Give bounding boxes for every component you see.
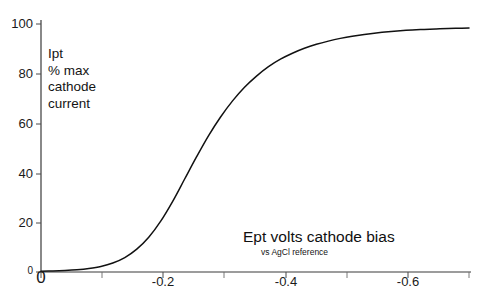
y-tick-label-40: 40 — [0, 167, 33, 181]
y-axis-label-line-2: % max — [48, 63, 96, 80]
y-axis-label: Ipt % max cathode current — [48, 46, 96, 112]
x-tick-label-neg02: -0.2 — [141, 275, 185, 289]
x-axis-label: Ept volts cathode bias — [243, 228, 483, 246]
x-tick-label-neg06: -0.6 — [386, 275, 430, 289]
x-tick-label-0: 0 — [27, 271, 55, 285]
y-tick-label-80: 80 — [0, 67, 33, 81]
x-tick-label-neg04: -0.4 — [264, 275, 308, 289]
y-axis-label-line-1: Ipt — [48, 46, 96, 63]
y-tick-label-100: 100 — [0, 17, 33, 31]
y-axis-label-line-3: cathode — [48, 79, 96, 96]
y-axis-label-line-4: current — [48, 96, 96, 113]
chart-figure: 100 80 60 40 20 0 0 -0.2 -0.4 -0.6 Ipt %… — [0, 0, 487, 306]
y-tick-label-60: 60 — [0, 117, 33, 131]
y-tick-marks — [36, 24, 41, 272]
x-axis-label-group: Ept volts cathode bias vs AgCl reference — [243, 228, 483, 258]
y-tick-label-20: 20 — [0, 216, 33, 230]
x-axis-sublabel: vs AgCl reference — [261, 247, 483, 258]
